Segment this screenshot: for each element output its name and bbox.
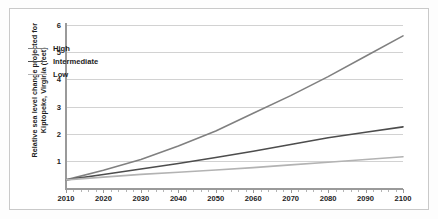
series-line-intermediate <box>66 127 403 180</box>
legend-item-label: Intermediate <box>53 57 98 66</box>
x-axis-tick-label: 2010 <box>58 194 75 203</box>
series-line-low <box>66 157 403 180</box>
x-axis-tick-label: 2100 <box>395 194 412 203</box>
legend-item-low[interactable]: Low <box>28 68 98 81</box>
legend-item-label: Low <box>53 70 68 79</box>
legend-swatch-icon <box>28 48 47 49</box>
y-axis-title: Relative sea level change projected for … <box>30 10 48 170</box>
x-axis-tick-mark <box>253 189 254 193</box>
series-lines <box>66 25 403 188</box>
y-axis-tick-label: 3 <box>57 102 61 111</box>
x-axis-tick-mark <box>216 189 217 193</box>
series-line-high <box>66 36 403 180</box>
legend-swatch-icon <box>28 61 47 62</box>
y-axis-tick-label: 2 <box>57 129 61 138</box>
x-axis-tick-mark <box>103 189 104 193</box>
x-axis-tick-mark <box>403 189 404 193</box>
x-axis-tick-mark <box>178 189 179 193</box>
chart-figure: Relative sea level change projected for … <box>0 0 438 219</box>
x-axis-tick-mark <box>141 189 142 193</box>
y-axis-tick-label: 6 <box>57 21 61 30</box>
x-axis-tick-label: 2070 <box>282 194 299 203</box>
x-axis-tick-mark <box>66 189 67 193</box>
x-axis-tick-mark <box>328 189 329 193</box>
legend-swatch-icon <box>28 74 47 75</box>
chart-frame: Relative sea level change projected for … <box>9 8 429 210</box>
legend-item-intermediate[interactable]: Intermediate <box>28 55 98 68</box>
x-axis-tick-label: 2080 <box>320 194 337 203</box>
x-axis-tick-label: 2050 <box>207 194 224 203</box>
legend-item-high[interactable]: High <box>28 42 98 55</box>
x-axis-tick-label: 2020 <box>95 194 112 203</box>
y-axis-tick-label: 1 <box>57 156 61 165</box>
x-axis-tick-label: 2030 <box>132 194 149 203</box>
x-axis-tick-mark <box>366 189 367 193</box>
x-axis-tick-label: 2040 <box>170 194 187 203</box>
x-axis-line <box>65 188 403 190</box>
legend: HighIntermediateLow <box>28 42 98 81</box>
legend-item-label: High <box>53 44 70 53</box>
x-axis-tick-mark <box>291 189 292 193</box>
x-axis-tick-label: 2090 <box>357 194 374 203</box>
x-axis-tick-label: 2060 <box>245 194 262 203</box>
plot-area: 123456 201020202030204020502060207020802… <box>66 25 403 188</box>
